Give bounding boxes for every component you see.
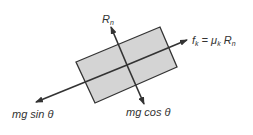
parallel-weight-label: mg sin θ: [12, 108, 53, 120]
normal-force-label: Rn: [102, 13, 114, 26]
perpendicular-weight-label: mg cos θ: [126, 106, 171, 118]
friction-force-label: fk = μk Rn: [192, 34, 236, 47]
free-body-diagram: Rn fk = μk Rn mg sin θ mg cos θ: [0, 0, 253, 135]
